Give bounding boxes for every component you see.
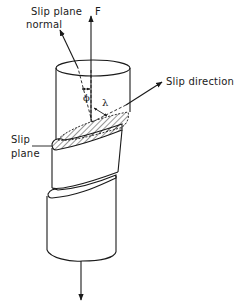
slip-plane — [52, 112, 129, 150]
label-slip-plane-line1: Slip — [11, 134, 30, 146]
label-slip-plane-line2: plane — [11, 148, 40, 160]
label-slip-plane-normal-line2: normal — [26, 19, 62, 31]
top-face-ellipse — [56, 60, 130, 76]
second-step-band — [48, 175, 116, 198]
label-force: F — [95, 6, 101, 18]
bottom-edge — [47, 250, 116, 261]
label-lambda: λ — [102, 97, 108, 108]
middle-right-wall — [118, 130, 122, 172]
middle-lower-edge — [52, 172, 118, 188]
slip-direction-arrow — [126, 82, 162, 105]
label-slip-direction: Slip direction — [166, 76, 234, 88]
lambda-angle-marker — [94, 108, 107, 116]
label-slip-plane-normal-line1: Slip plane — [31, 6, 82, 18]
label-phi: ϕ — [83, 92, 90, 103]
